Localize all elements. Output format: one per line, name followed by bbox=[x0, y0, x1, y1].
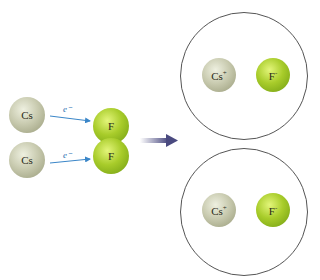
electron-label-2: e⁻ bbox=[63, 150, 72, 160]
electron-label-1: e⁻ bbox=[63, 104, 72, 114]
cesium-ion-2: Cs+ bbox=[202, 193, 236, 227]
atom-label: F bbox=[108, 150, 114, 162]
atom-label: F bbox=[108, 120, 114, 132]
reaction-arrow-head bbox=[166, 134, 178, 147]
cesium-atom-1: Cs bbox=[9, 97, 45, 133]
reaction-arrow-shaft bbox=[140, 138, 168, 143]
ion-label: Cs+ bbox=[211, 204, 227, 217]
ion-label: F- bbox=[269, 69, 277, 82]
ion-label: Cs+ bbox=[211, 69, 227, 82]
atom-label: Cs bbox=[21, 154, 33, 166]
ion-label: F- bbox=[269, 204, 277, 217]
fluoride-ion-1: F- bbox=[256, 58, 290, 92]
cesium-ion-1: Cs+ bbox=[202, 58, 236, 92]
atom-label: Cs bbox=[21, 109, 33, 121]
fluorine-atom-2: F bbox=[93, 138, 129, 174]
electron-transfer-arrow-1 bbox=[50, 116, 90, 121]
cesium-atom-2: Cs bbox=[9, 142, 45, 178]
fluoride-ion-2: F- bbox=[256, 193, 290, 227]
